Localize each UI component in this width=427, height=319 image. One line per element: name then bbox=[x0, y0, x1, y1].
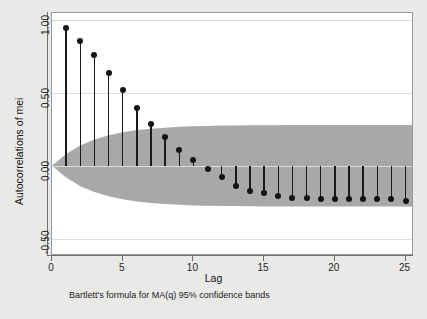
x-tick-mark bbox=[405, 256, 406, 261]
stem-line bbox=[65, 28, 66, 166]
gridline-y bbox=[52, 93, 412, 94]
y-tick-label: -0.50 bbox=[40, 230, 51, 254]
x-axis-line bbox=[47, 255, 413, 256]
stem-line bbox=[249, 166, 250, 191]
stem-line bbox=[377, 166, 378, 199]
stem-line bbox=[122, 90, 123, 166]
data-point bbox=[77, 38, 83, 44]
data-point bbox=[304, 195, 310, 201]
autocorrelation-chart: 1.000.500.00-0.50 0510152025 Autocorrela… bbox=[0, 0, 427, 319]
y-tick-label: 1.00 bbox=[40, 15, 51, 35]
data-point bbox=[403, 198, 409, 204]
gridline-y bbox=[52, 239, 412, 240]
stem-line bbox=[306, 166, 307, 198]
x-tick-mark bbox=[51, 256, 52, 261]
y-axis-line bbox=[47, 12, 48, 255]
stem-line bbox=[292, 166, 293, 198]
x-tick-mark bbox=[192, 256, 193, 261]
stem-line bbox=[94, 55, 95, 166]
stem-line bbox=[136, 108, 137, 166]
data-point bbox=[162, 134, 168, 140]
stem-line bbox=[263, 166, 264, 194]
stem-line bbox=[320, 166, 321, 199]
data-point bbox=[134, 105, 140, 111]
confidence-band bbox=[52, 13, 413, 255]
x-tick-mark bbox=[334, 256, 335, 261]
x-tick-mark bbox=[263, 256, 264, 261]
stem-line bbox=[334, 166, 335, 199]
gridline-y bbox=[52, 20, 412, 21]
data-point bbox=[318, 196, 324, 202]
stem-line bbox=[391, 166, 392, 199]
x-axis-title: Lag bbox=[0, 272, 427, 284]
y-tick-label: 0.00 bbox=[40, 161, 51, 181]
figure-background: 1.000.500.00-0.50 0510152025 Autocorrela… bbox=[0, 0, 427, 311]
data-point bbox=[120, 87, 126, 93]
stem-line bbox=[348, 166, 349, 199]
stem-line bbox=[80, 41, 81, 166]
data-point bbox=[233, 183, 239, 189]
stem-line bbox=[362, 166, 363, 199]
chart-note: Bartlett's formula for MA(q) 95% confide… bbox=[69, 290, 270, 300]
gridline-y bbox=[52, 166, 412, 167]
data-point bbox=[247, 188, 253, 194]
x-tick-mark bbox=[122, 256, 123, 261]
data-point bbox=[205, 166, 211, 172]
stem-line bbox=[164, 137, 165, 166]
y-axis-title: Autocorrelations of mei bbox=[13, 98, 25, 205]
y-tick-label: 0.50 bbox=[40, 88, 51, 108]
data-point bbox=[63, 25, 69, 31]
stem-line bbox=[405, 166, 406, 201]
stem-line bbox=[108, 73, 109, 166]
plot-area bbox=[51, 12, 413, 255]
stem-line bbox=[150, 124, 151, 166]
data-point bbox=[106, 70, 112, 76]
stem-line bbox=[278, 166, 279, 197]
data-point bbox=[148, 121, 154, 127]
